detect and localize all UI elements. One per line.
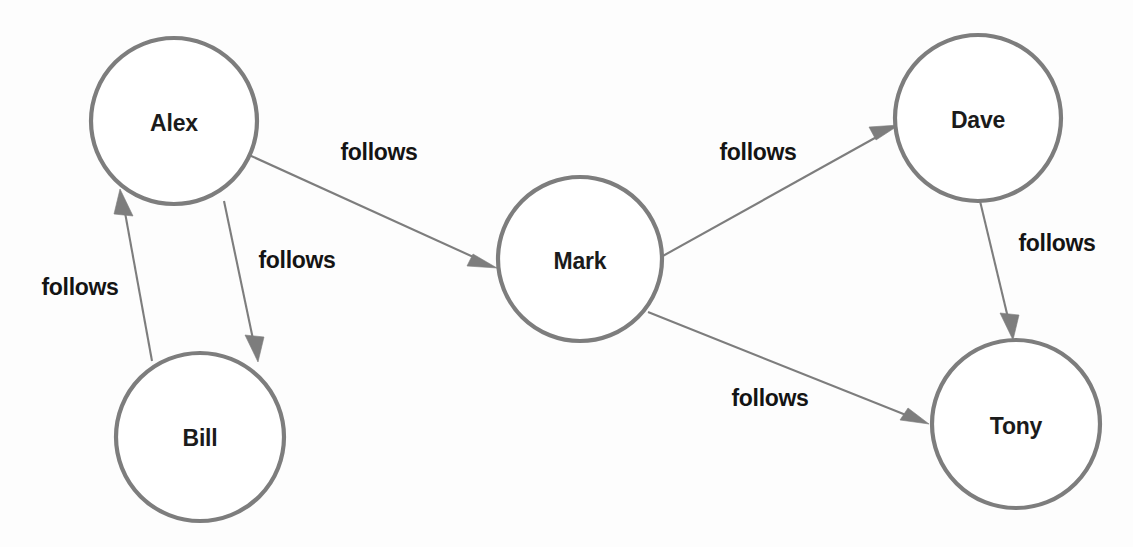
edge-alex-mark-line — [249, 155, 480, 260]
node-mark-label: Mark — [554, 248, 607, 274]
node-mark[interactable]: Mark — [498, 177, 662, 341]
edge-bill-alex-label: follows — [41, 274, 118, 300]
edge-mark-tony-label: follows — [731, 385, 808, 411]
edge-mark-tony-arrowhead — [900, 408, 929, 424]
node-bill[interactable]: Bill — [116, 353, 284, 521]
graph-canvas: follows follows follows follows — [0, 0, 1133, 547]
edge-dave-tony[interactable]: follows — [980, 201, 1096, 340]
edge-alex-bill-arrowhead — [245, 335, 264, 362]
edge-mark-dave[interactable]: follows — [661, 125, 899, 257]
edge-mark-tony[interactable]: follows — [648, 312, 929, 424]
edge-mark-dave-label: follows — [719, 139, 796, 165]
node-bill-label: Bill — [183, 425, 218, 451]
node-alex-label: Alex — [150, 110, 198, 136]
edge-alex-bill[interactable]: follows — [224, 201, 336, 362]
edge-dave-tony-arrowhead — [1000, 313, 1019, 340]
node-dave-label: Dave — [951, 107, 1005, 133]
node-dave[interactable]: Dave — [895, 35, 1061, 201]
edge-dave-tony-line — [980, 201, 1009, 322]
graph-diagram: follows follows follows follows — [0, 0, 1133, 547]
edge-alex-bill-line — [224, 201, 254, 344]
node-alex[interactable]: Alex — [91, 38, 257, 204]
edge-bill-alex[interactable]: follows — [41, 189, 152, 361]
node-tony-label: Tony — [990, 413, 1043, 439]
edge-dave-tony-label: follows — [1018, 230, 1095, 256]
node-tony[interactable]: Tony — [932, 340, 1100, 508]
edge-alex-bill-label: follows — [258, 247, 335, 273]
edge-alex-mark-label: follows — [340, 139, 417, 165]
edge-bill-alex-line — [124, 207, 152, 361]
nodes-layer: Alex Bill Mark Dave Tony — [91, 35, 1100, 521]
